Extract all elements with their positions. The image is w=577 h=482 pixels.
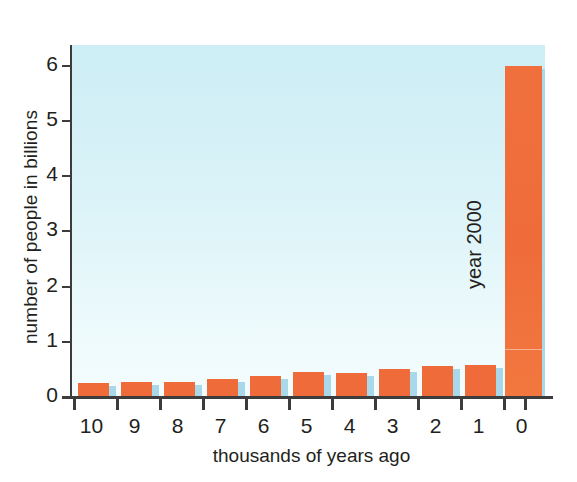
x-tick-label: 7 (201, 414, 241, 438)
y-tick-mark (62, 65, 71, 67)
x-tick-label: 5 (287, 414, 327, 438)
x-tick-mark (460, 399, 463, 410)
bar-group (121, 45, 152, 397)
x-tick-label: 0 (502, 414, 542, 438)
x-tick-label: 8 (158, 414, 198, 438)
bar-group (422, 45, 453, 397)
y-tick-mark (62, 396, 71, 398)
bar (250, 376, 281, 397)
y-tick-label: 5 (36, 108, 58, 129)
x-tick-mark (159, 399, 162, 410)
y-tick-mark (62, 286, 71, 288)
x-tick-mark (374, 399, 377, 410)
bar-group (207, 45, 238, 397)
bar (422, 366, 453, 397)
x-tick-mark (503, 399, 506, 410)
y-tick-mark (62, 175, 71, 177)
bar (379, 369, 410, 397)
x-tick-mark (202, 399, 205, 410)
x-tick-mark (245, 399, 248, 410)
bar (505, 66, 542, 397)
bar-group (78, 45, 109, 397)
bar (207, 379, 238, 397)
x-tick-label: 10 (72, 414, 112, 438)
scan-artifact-line (505, 349, 542, 350)
bar (164, 382, 195, 397)
y-axis-line (70, 45, 72, 398)
bar (78, 383, 109, 397)
x-axis-title-text: thousands of years ago (167, 445, 411, 466)
y-tick-label: 4 (36, 163, 58, 184)
y-tick-label: 1 (36, 329, 58, 350)
bar (465, 365, 496, 397)
x-tick-label: 4 (330, 414, 370, 438)
x-tick-label: 2 (416, 414, 456, 438)
bar (121, 382, 152, 397)
population-bar-chart: year 2000 number of people in billions 0… (0, 0, 577, 482)
y-tick-label: 6 (36, 53, 58, 74)
plot-area: year 2000 (72, 45, 545, 397)
y-tick-mark (62, 341, 71, 343)
bar-group (164, 45, 195, 397)
bar (293, 372, 324, 397)
y-tick-mark (62, 120, 71, 122)
bar (336, 373, 367, 397)
x-tick-mark (288, 399, 291, 410)
y-tick-mark (62, 230, 71, 232)
bar-group (379, 45, 410, 397)
x-tick-label: 6 (244, 414, 284, 438)
x-tick-mark (524, 399, 527, 410)
y-tick-label: 3 (36, 218, 58, 239)
x-axis-title: thousands of years ago (0, 445, 577, 467)
x-tick-mark (73, 399, 76, 410)
y-tick-label: 0 (36, 384, 58, 405)
x-tick-label: 1 (459, 414, 499, 438)
y-tick-label-group: 0123456 (34, 0, 58, 482)
x-tick-label: 9 (115, 414, 155, 438)
x-tick-mark (116, 399, 119, 410)
x-tick-label: 3 (373, 414, 413, 438)
x-tick-mark (331, 399, 334, 410)
annotation-year-2000: year 2000 (463, 200, 486, 289)
y-tick-label: 2 (36, 274, 58, 295)
bar-group (336, 45, 367, 397)
bar-group (293, 45, 324, 397)
x-tick-mark (417, 399, 420, 410)
bar-group (505, 45, 542, 397)
bar-group (250, 45, 281, 397)
x-axis-line (62, 396, 553, 399)
